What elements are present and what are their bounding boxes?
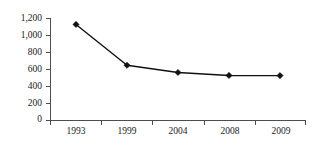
y-axis-label-0: 0 xyxy=(37,114,42,124)
y-axis-ticks xyxy=(46,19,51,121)
x-axis-label-2008: 2008 xyxy=(221,126,240,136)
y-axis-label-1000: 1,000 xyxy=(21,30,43,40)
x-axis-label-2004: 2004 xyxy=(169,126,188,136)
y-axis-label-600: 600 xyxy=(28,64,43,74)
y-axis-label-200: 200 xyxy=(28,98,43,108)
x-axis-ticks xyxy=(51,121,306,126)
x-axis-label-1993: 1993 xyxy=(67,126,86,136)
y-axis-label-800: 800 xyxy=(28,47,43,57)
line-chart: 1,200 1,000 800 600 400 200 0 1993 1999 … xyxy=(0,0,320,147)
plot-area xyxy=(50,14,306,120)
chart-canvas: 1,200 1,000 800 600 400 200 0 1993 1999 … xyxy=(0,0,320,147)
x-axis-label-2009: 2009 xyxy=(272,126,291,136)
x-axis-label-1999: 1999 xyxy=(118,126,137,136)
y-axis-label-1200: 1,200 xyxy=(21,13,43,23)
y-axis-label-400: 400 xyxy=(28,81,43,91)
